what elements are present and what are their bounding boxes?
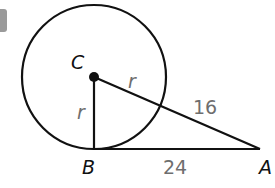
- geometry-figure: [0, 0, 275, 188]
- label-radius-slanted: r: [128, 72, 136, 91]
- center-point-c: [89, 72, 99, 82]
- segment-ca: [94, 77, 260, 149]
- diagram-canvas: C r r 16 B 24 A: [0, 0, 275, 188]
- label-radius-vertical: r: [77, 103, 85, 122]
- label-point-c: C: [71, 53, 84, 72]
- label-point-a: A: [259, 158, 272, 177]
- label-external-segment: 16: [193, 98, 217, 117]
- label-point-b: B: [82, 158, 95, 177]
- label-tangent-length: 24: [163, 158, 187, 177]
